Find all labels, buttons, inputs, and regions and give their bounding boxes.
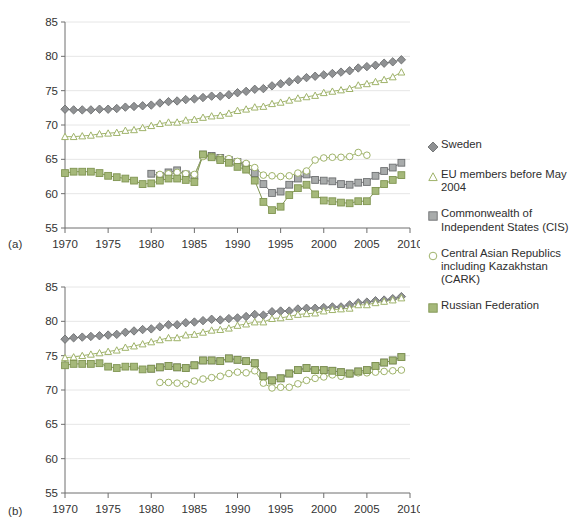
legend-entry[interactable]: EU members before May 2004 bbox=[425, 168, 585, 194]
svg-text:2005: 2005 bbox=[354, 503, 380, 515]
svg-text:1990: 1990 bbox=[225, 238, 251, 250]
svg-text:1985: 1985 bbox=[182, 238, 208, 250]
svg-text:1975: 1975 bbox=[95, 238, 121, 250]
svg-text:55: 55 bbox=[45, 222, 58, 234]
svg-text:1980: 1980 bbox=[138, 238, 164, 250]
plot-area-b: 5560657075808519701975198019851990199520… bbox=[0, 265, 420, 531]
panel-b-label: (b) bbox=[8, 505, 22, 517]
chart-panel-a: 5560657075808519701975198019851990199520… bbox=[0, 0, 420, 266]
svg-text:1985: 1985 bbox=[182, 503, 208, 515]
chart-panel-b: 5560657075808519701975198019851990199520… bbox=[0, 265, 420, 531]
square-filled-green-icon bbox=[425, 300, 441, 316]
svg-text:70: 70 bbox=[45, 119, 58, 131]
svg-text:75: 75 bbox=[45, 350, 58, 362]
svg-text:1995: 1995 bbox=[268, 503, 294, 515]
svg-text:2000: 2000 bbox=[311, 238, 337, 250]
svg-text:85: 85 bbox=[45, 281, 58, 293]
svg-text:80: 80 bbox=[45, 50, 58, 62]
legend-entry[interactable]: Russian Federation bbox=[425, 299, 585, 316]
legend-label: Russian Federation bbox=[441, 299, 539, 312]
svg-text:85: 85 bbox=[45, 16, 58, 28]
figure-container: 5560657075808519701975198019851990199520… bbox=[0, 0, 585, 531]
svg-text:55: 55 bbox=[45, 487, 58, 499]
diamond-filled-icon bbox=[425, 139, 441, 155]
svg-text:1990: 1990 bbox=[225, 503, 251, 515]
legend-label: Sweden bbox=[441, 138, 482, 151]
square-filled-grey-icon bbox=[425, 208, 441, 224]
triangle-open-icon bbox=[425, 169, 441, 185]
svg-text:1995: 1995 bbox=[268, 238, 294, 250]
svg-text:2010: 2010 bbox=[397, 503, 420, 515]
chart-legend: SwedenEU members before May 2004Commonwe… bbox=[425, 138, 585, 329]
svg-text:60: 60 bbox=[45, 188, 58, 200]
svg-text:1970: 1970 bbox=[52, 503, 78, 515]
legend-entry[interactable]: Commonwealth of Independent States (CIS) bbox=[425, 207, 585, 233]
svg-text:2010: 2010 bbox=[397, 238, 420, 250]
svg-text:70: 70 bbox=[45, 384, 58, 396]
svg-text:75: 75 bbox=[45, 85, 58, 97]
circle-open-icon bbox=[425, 248, 441, 264]
legend-entry[interactable]: Sweden bbox=[425, 138, 585, 155]
svg-text:1975: 1975 bbox=[95, 503, 121, 515]
svg-text:2005: 2005 bbox=[354, 238, 380, 250]
svg-text:65: 65 bbox=[45, 418, 58, 430]
svg-text:1970: 1970 bbox=[52, 238, 78, 250]
legend-label: EU members before May 2004 bbox=[441, 168, 585, 194]
svg-text:80: 80 bbox=[45, 315, 58, 327]
legend-label: Central Asian Republics including Kazakh… bbox=[441, 247, 585, 287]
svg-text:60: 60 bbox=[45, 453, 58, 465]
svg-text:65: 65 bbox=[45, 153, 58, 165]
plot-area-a: 5560657075808519701975198019851990199520… bbox=[0, 0, 420, 266]
svg-text:2000: 2000 bbox=[311, 503, 337, 515]
legend-label: Commonwealth of Independent States (CIS) bbox=[441, 207, 585, 233]
panel-a-label: (a) bbox=[8, 238, 22, 250]
svg-text:1980: 1980 bbox=[138, 503, 164, 515]
legend-entry[interactable]: Central Asian Republics including Kazakh… bbox=[425, 247, 585, 287]
